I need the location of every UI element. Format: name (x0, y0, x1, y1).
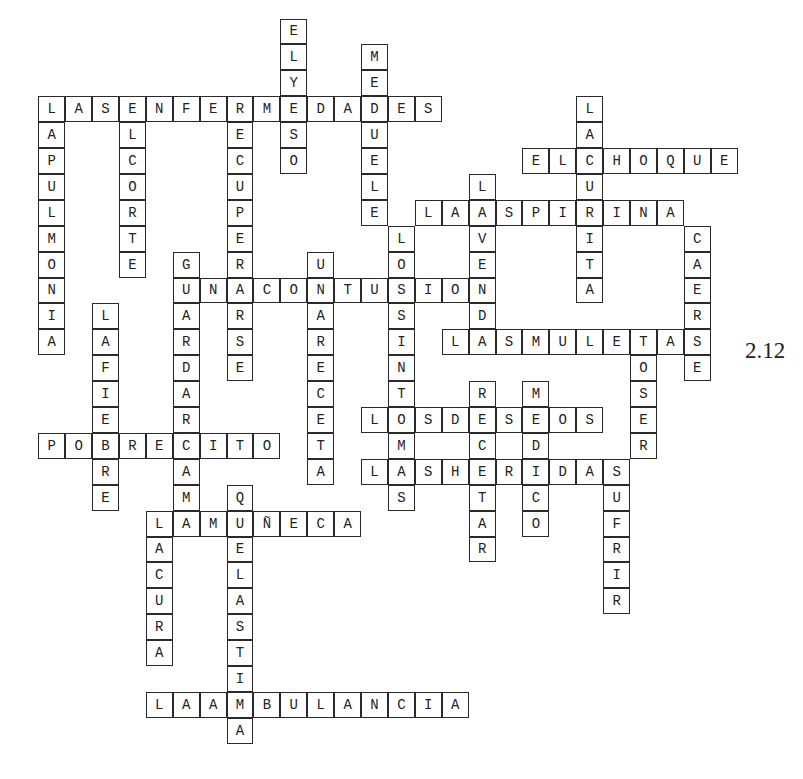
crossword-cell: H (442, 459, 469, 485)
crossword-cell: E (630, 407, 657, 433)
crossword-cell: A (334, 96, 361, 122)
crossword-cell: I (549, 200, 576, 226)
crossword-cell: E (227, 355, 254, 381)
crossword-cell: S (227, 329, 254, 355)
crossword-cell: Q (227, 485, 254, 511)
crossword-cell: E (684, 355, 711, 381)
crossword-cell: D (549, 459, 576, 485)
crossword-cell: A (146, 537, 173, 563)
crossword-cell: M (388, 433, 415, 459)
crossword-cell: A (146, 640, 173, 666)
crossword-cell: A (469, 511, 496, 537)
crossword-cell: C (576, 148, 603, 174)
crossword-cell: C (227, 148, 254, 174)
crossword-cell: E (280, 511, 307, 537)
crossword-cell: M (200, 511, 227, 537)
crossword-cell: O (280, 278, 307, 304)
crossword-cell: U (38, 174, 65, 200)
crossword-cell: E (361, 148, 388, 174)
crossword-cell: A (173, 303, 200, 329)
crossword-cell: O (38, 252, 65, 278)
crossword-cell: S (603, 459, 630, 485)
crossword-cell: Q (657, 148, 684, 174)
crossword-cell: O (65, 433, 92, 459)
crossword-cell: R (227, 303, 254, 329)
crossword-cell: D (173, 355, 200, 381)
crossword-cell: N (630, 200, 657, 226)
crossword-cell: R (307, 329, 334, 355)
crossword-cell: E (227, 122, 254, 148)
crossword-cell: L (146, 692, 173, 718)
crossword-cell: B (253, 692, 280, 718)
crossword-cell: A (173, 511, 200, 537)
crossword-cell: E (711, 148, 738, 174)
crossword-cell: E (469, 252, 496, 278)
crossword-cell: I (576, 226, 603, 252)
crossword-cell: L (576, 329, 603, 355)
crossword-cell: U (173, 278, 200, 304)
crossword-cell: R (469, 537, 496, 563)
crossword-cell: A (576, 459, 603, 485)
crossword-cell: E (522, 148, 549, 174)
crossword-cell: I (603, 562, 630, 588)
crossword-cell: A (173, 459, 200, 485)
crossword-cell: M (38, 226, 65, 252)
crossword-cell: A (38, 122, 65, 148)
crossword-cell: D (307, 96, 334, 122)
crossword-cell: E (119, 96, 146, 122)
crossword-cell: A (227, 588, 254, 614)
crossword-cell: A (307, 303, 334, 329)
crossword-cell: E (307, 355, 334, 381)
crossword-cell: I (603, 200, 630, 226)
crossword-cell: S (388, 303, 415, 329)
crossword-cell: C (253, 278, 280, 304)
crossword-cell: L (92, 303, 119, 329)
crossword-cell: G (173, 252, 200, 278)
crossword-cell: A (173, 692, 200, 718)
crossword-cell: L (361, 459, 388, 485)
crossword-cell: S (496, 329, 523, 355)
crossword-cell: E (307, 407, 334, 433)
crossword-cell: D (442, 407, 469, 433)
crossword-cell: E (361, 70, 388, 96)
crossword-cell: S (92, 96, 119, 122)
crossword-cell: R (227, 96, 254, 122)
crossword-cell: A (227, 278, 254, 304)
crossword-cell: S (630, 381, 657, 407)
crossword-cell: S (280, 122, 307, 148)
crossword-cell: L (119, 122, 146, 148)
crossword-cell: T (630, 329, 657, 355)
crossword-cell: A (173, 381, 200, 407)
crossword-cell: P (227, 200, 254, 226)
crossword-cell: N (361, 692, 388, 718)
crossword-cell: Y (280, 70, 307, 96)
crossword-cell: P (38, 148, 65, 174)
crossword-grid: LASENFERMEDADESELYSOMEUELEAPULMONIALCORT… (0, 0, 803, 779)
crossword-cell: R (684, 303, 711, 329)
crossword-cell: C (307, 381, 334, 407)
crossword-cell: T (119, 226, 146, 252)
crossword-cell: R (173, 407, 200, 433)
crossword-cell: A (442, 692, 469, 718)
crossword-cell: N (200, 278, 227, 304)
crossword-cell: A (38, 329, 65, 355)
crossword-cell: R (146, 614, 173, 640)
crossword-cell: L (415, 200, 442, 226)
crossword-cell: A (334, 692, 361, 718)
crossword-cell: L (280, 44, 307, 70)
crossword-cell: R (630, 433, 657, 459)
crossword-cell: L (549, 148, 576, 174)
crossword-cell: M (522, 381, 549, 407)
crossword-cell: E (280, 19, 307, 45)
crossword-cell: A (92, 329, 119, 355)
crossword-cell: A (227, 718, 254, 744)
crossword-cell: L (227, 562, 254, 588)
crossword-cell: R (603, 537, 630, 563)
crossword-cell: E (92, 407, 119, 433)
crossword-cell: U (549, 329, 576, 355)
crossword-cell: U (227, 511, 254, 537)
crossword-cell: A (657, 329, 684, 355)
crossword-cell: N (469, 278, 496, 304)
crossword-cell: U (361, 122, 388, 148)
crossword-cell: A (469, 329, 496, 355)
